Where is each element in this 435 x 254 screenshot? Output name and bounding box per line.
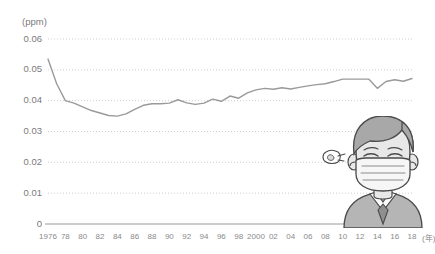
person-wearing-mask-illustration bbox=[318, 116, 433, 228]
data-series-line bbox=[48, 59, 412, 116]
face-mask bbox=[350, 158, 416, 191]
x-axis-unit-label: (年) bbox=[422, 232, 435, 243]
cough-hand-icon bbox=[323, 151, 345, 164]
data-series-lines bbox=[48, 59, 412, 116]
